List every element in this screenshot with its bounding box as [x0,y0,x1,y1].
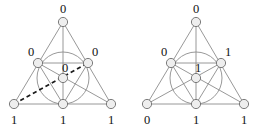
right-node-mid-right[interactable] [216,58,225,67]
right-node-bottom-left[interactable] [142,99,151,108]
fano-plane-figure: 0 0 0 0 1 1 1 0 0 1 1 0 1 1 [0,0,265,132]
left-label-mid-right: 0 [92,45,98,59]
right-node-bottom-mid[interactable] [191,99,200,108]
right-label-bottom-left: 0 [144,113,150,127]
right-median-midleft-bottomright [171,63,244,104]
left-node-bottom-right[interactable] [106,99,115,108]
right-node-top[interactable] [191,17,200,26]
left-node-mid-right[interactable] [83,58,92,67]
left-label-center: 0 [62,61,68,75]
right-node-bottom-right[interactable] [239,99,248,108]
right-label-bottom-mid: 1 [193,113,199,127]
left-node-mid-left[interactable] [33,58,42,67]
left-fano-diagram: 0 0 0 0 1 1 1 [0,0,132,132]
left-median-midleft-bottomright [38,63,111,104]
left-label-mid-left: 0 [28,45,34,59]
left-label-bottom-right: 1 [108,113,114,127]
left-node-top[interactable] [58,17,67,26]
right-node-mid-left[interactable] [166,58,175,67]
left-node-bottom-left[interactable] [9,99,18,108]
left-label-top: 0 [60,2,66,16]
right-chord-midleft-bottommid [171,63,196,104]
left-label-bottom-left: 1 [11,113,17,127]
left-label-bottom-mid: 1 [60,113,66,127]
right-label-center: 1 [195,61,201,75]
right-fano-diagram: 0 0 1 1 0 1 1 [133,0,265,132]
right-label-mid-right: 1 [225,45,231,59]
left-node-bottom-mid[interactable] [58,99,67,108]
left-chord-midleft-bottommid [38,63,63,104]
right-label-bottom-right: 1 [241,113,247,127]
right-label-top: 0 [193,2,199,16]
right-label-mid-left: 0 [161,45,167,59]
